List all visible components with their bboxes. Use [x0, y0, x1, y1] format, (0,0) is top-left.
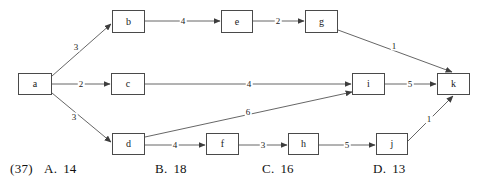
answer-option-letter: D.: [373, 161, 386, 176]
answer-option-letter: A.: [44, 161, 57, 176]
question-number-label: (37): [10, 161, 33, 176]
answer-option-a[interactable]: A.14: [44, 162, 76, 175]
graph-node-label: h: [301, 139, 306, 149]
graph-node-label: k: [451, 79, 456, 89]
question-number: (37): [10, 162, 33, 175]
answer-option-c[interactable]: C.16: [262, 162, 294, 175]
edge-weight-a-d: 3: [71, 113, 78, 122]
answer-option-value: 14: [63, 161, 76, 176]
graph-edge-a-to-d: [52, 93, 111, 142]
graph-edge-a-to-b: [52, 24, 111, 76]
answer-option-value: 18: [174, 161, 187, 176]
graph-node-b: b: [112, 10, 145, 33]
graph-node-h: h: [288, 133, 319, 155]
edge-weight-f-h: 3: [260, 141, 267, 150]
graph-node-e: e: [221, 10, 253, 33]
graph-node-label: d: [126, 139, 131, 149]
graph-node-k: k: [437, 73, 470, 95]
graph-node-label: a: [33, 79, 37, 89]
graph-node-label: e: [235, 17, 239, 27]
edge-weight-g-k: 1: [391, 42, 398, 51]
graph-node-label: c: [126, 79, 130, 89]
answer-option-value: 13: [392, 161, 405, 176]
graph-node-label: b: [126, 17, 131, 27]
graph-node-a: a: [18, 73, 52, 95]
edge-weight-c-i: 4: [246, 80, 253, 89]
graph-node-g: g: [305, 10, 338, 33]
answer-option-letter: C.: [262, 161, 275, 176]
graph-node-label: f: [221, 139, 224, 149]
graph-node-f: f: [206, 133, 239, 155]
graph-node-label: g: [319, 17, 324, 27]
graph-node-label: j: [391, 139, 394, 149]
graph-node-i: i: [352, 73, 385, 95]
graph-edge-g-to-k: [338, 30, 452, 72]
answer-option-d[interactable]: D.13: [373, 162, 405, 175]
answer-option-letter: B.: [155, 161, 168, 176]
edge-weight-d-f: 4: [172, 141, 179, 150]
edge-weight-e-g: 2: [275, 17, 282, 26]
edge-weight-d-i: 6: [245, 108, 252, 117]
answer-option-b[interactable]: B.18: [155, 162, 187, 175]
graph-node-label: i: [367, 79, 370, 89]
graph-problem-figure: abcdefghijk 3234214643515 (37) A.14B.18C…: [0, 0, 488, 182]
edge-weight-h-j: 5: [344, 141, 351, 150]
graph-node-j: j: [376, 133, 408, 155]
edge-weight-a-b: 3: [73, 43, 80, 52]
answer-options-row: (37) A.14B.18C.16D.13: [0, 157, 488, 182]
graph-node-c: c: [111, 73, 145, 95]
edge-weight-j-k: 1: [426, 115, 433, 124]
edge-weight-a-c: 2: [78, 80, 85, 89]
answer-option-value: 16: [281, 161, 294, 176]
edge-weight-b-e: 4: [180, 17, 187, 26]
graph-node-d: d: [112, 133, 145, 155]
edge-weight-i-k: 5: [407, 80, 414, 89]
